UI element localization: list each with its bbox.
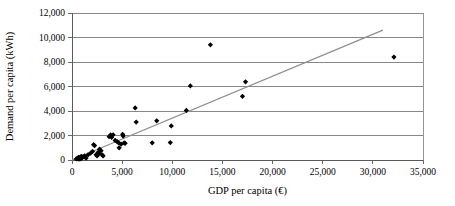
data-point-marker xyxy=(168,140,173,145)
x-tick-label: 15,000 xyxy=(209,167,235,177)
y-tick-label: 0 xyxy=(60,155,65,165)
x-axis-title: GDP per capita (€) xyxy=(208,185,288,197)
data-point-marker xyxy=(154,118,159,123)
data-point-marker xyxy=(391,55,396,60)
x-tick-label: 20,000 xyxy=(260,167,286,177)
data-point-marker xyxy=(240,94,245,99)
data-point-marker xyxy=(243,79,248,84)
scatter-chart: 02,0004,0006,0008,00010,00012,00005,0001… xyxy=(0,0,455,206)
y-tick-label: 8,000 xyxy=(44,57,66,67)
y-axis: 02,0004,0006,0008,00010,00012,000 xyxy=(39,8,72,165)
x-tick-label: 25,000 xyxy=(310,167,336,177)
x-tick-label: 0 xyxy=(70,167,75,177)
data-point-marker xyxy=(208,42,213,47)
y-axis-title: Demand per capita (kWh) xyxy=(4,31,16,141)
y-tick-label: 6,000 xyxy=(44,82,66,92)
data-point-marker xyxy=(184,108,189,113)
data-point-marker xyxy=(169,123,174,128)
x-tick-label: 35,000 xyxy=(410,167,436,177)
x-tick-label: 10,000 xyxy=(159,167,185,177)
y-tick-label: 12,000 xyxy=(39,8,65,18)
data-point-marker xyxy=(188,83,193,88)
x-axis: 05,00010,00015,00020,00025,00030,00035,0… xyxy=(70,160,437,177)
gridlines xyxy=(72,13,423,136)
y-tick-label: 10,000 xyxy=(39,33,65,43)
data-point-marker xyxy=(134,119,139,124)
data-points xyxy=(74,42,397,162)
data-point-marker xyxy=(133,105,138,110)
x-tick-label: 5,000 xyxy=(111,167,133,177)
y-tick-label: 4,000 xyxy=(44,106,66,116)
chart-canvas: 02,0004,0006,0008,00010,00012,00005,0001… xyxy=(0,0,455,206)
data-point-marker xyxy=(150,140,155,145)
y-tick-label: 2,000 xyxy=(44,131,66,141)
x-tick-label: 30,000 xyxy=(360,167,386,177)
